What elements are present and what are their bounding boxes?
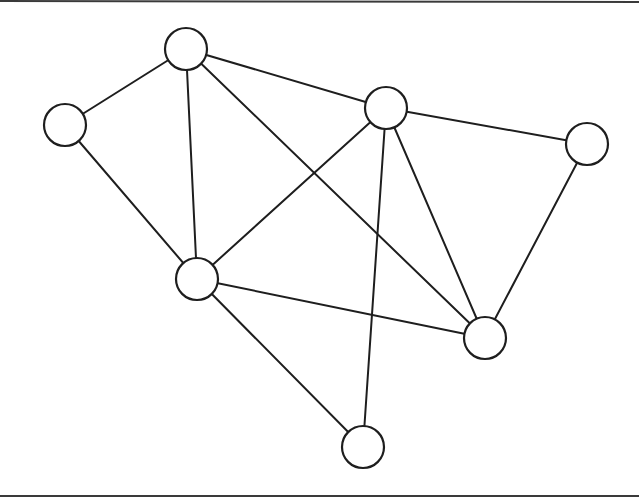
graph-svg: [0, 0, 639, 502]
edge-E-F: [197, 279, 485, 338]
node-A: [165, 28, 207, 70]
edge-C-G: [363, 108, 386, 447]
edge-B-E: [65, 125, 197, 279]
edges: [65, 49, 587, 447]
edge-E-G: [197, 279, 363, 447]
node-E: [176, 258, 218, 300]
node-B: [44, 104, 86, 146]
edge-D-F: [485, 144, 587, 338]
edge-C-F: [386, 108, 485, 338]
border-lines: [0, 1, 639, 496]
edge-C-E: [197, 108, 386, 279]
graph-diagram: [0, 0, 639, 502]
node-D: [566, 123, 608, 165]
top-rule: [0, 1, 639, 2]
node-G: [342, 426, 384, 468]
node-F: [464, 317, 506, 359]
nodes: [44, 28, 608, 468]
edge-A-E: [186, 49, 197, 279]
node-C: [365, 87, 407, 129]
edge-C-D: [386, 108, 587, 144]
